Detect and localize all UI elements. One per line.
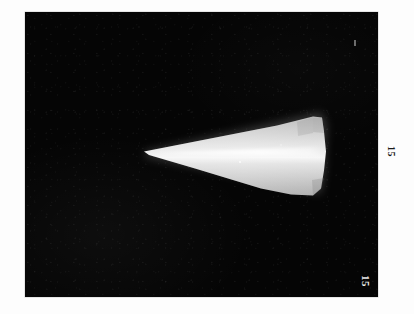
document-page: 15 15 — [0, 0, 414, 314]
body-speck — [280, 144, 282, 146]
cone-svg — [25, 12, 378, 297]
plate-page-number: 15 — [360, 275, 372, 287]
photographic-plate: 15 — [25, 12, 378, 297]
margin-page-number: 15 — [386, 146, 397, 157]
body-speck — [239, 161, 241, 163]
luminous-cone-figure — [25, 12, 378, 297]
